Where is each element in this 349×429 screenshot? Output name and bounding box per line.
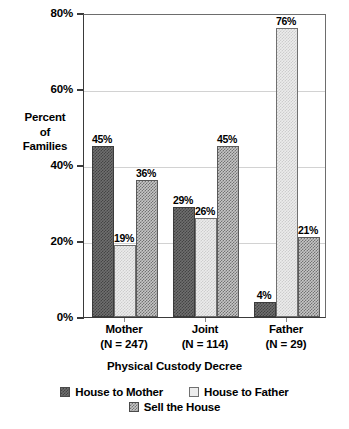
bar-value-label: 29%: [165, 194, 201, 206]
x-axis-group-label: Father(N = 29): [236, 322, 336, 352]
y-axis-title: Percent of Families: [13, 110, 77, 154]
plot-area: [83, 14, 326, 318]
legend-swatch-icon-house-to-father: [189, 387, 199, 397]
bar: [276, 28, 298, 317]
x-axis-group-name: Mother: [105, 323, 142, 335]
legend-swatch-icon-house-to-mother: [60, 387, 70, 397]
y-axis-title-line-2: of: [40, 126, 50, 138]
x-axis-group-name: Father: [269, 323, 303, 335]
bar: [298, 237, 320, 317]
y-axis-tick-label: 60%: [51, 83, 73, 95]
bar: [92, 146, 114, 317]
legend-label-sell-the-house: Sell the House: [144, 401, 220, 413]
bar-value-label: 45%: [84, 133, 120, 145]
x-axis-title: Physical Custody Decree: [0, 360, 349, 372]
legend-swatch-icon-sell-the-house: [129, 402, 139, 412]
bar: [254, 302, 276, 317]
legend-label-house-to-mother: House to Mother: [75, 386, 163, 398]
legend-row-1: House to Mother House to Father: [0, 386, 349, 398]
y-axis-title-line-3: Families: [23, 140, 67, 152]
legend-item-house-to-father: House to Father: [189, 386, 289, 398]
bar-value-label: 45%: [209, 133, 245, 145]
y-axis-tick-label: 20%: [51, 235, 73, 247]
bar-value-label: 36%: [128, 167, 164, 179]
x-axis-group-name: Joint: [192, 323, 218, 335]
legend-row-2: Sell the House: [0, 401, 349, 413]
grouped-bar-chart: Percent of Families 80%60%40%20%0% 45%19…: [0, 0, 349, 429]
legend: House to Mother House to Father Sell the…: [0, 386, 349, 416]
legend-label-house-to-father: House to Father: [204, 386, 289, 398]
bar: [173, 207, 195, 317]
bar: [195, 218, 217, 317]
x-axis-group-count: (N = 29): [236, 337, 336, 352]
legend-item-sell-the-house: Sell the House: [129, 401, 220, 413]
legend-item-house-to-mother: House to Mother: [60, 386, 163, 398]
y-axis-tick-label: 40%: [51, 159, 73, 171]
bar: [114, 245, 136, 317]
y-axis-title-line-1: Percent: [25, 111, 66, 123]
bar: [136, 180, 158, 317]
bar: [217, 146, 239, 317]
y-axis-tick-label: 80%: [51, 7, 73, 19]
bar-value-label: 76%: [268, 15, 304, 27]
y-axis-tick-label: 0%: [57, 311, 73, 323]
